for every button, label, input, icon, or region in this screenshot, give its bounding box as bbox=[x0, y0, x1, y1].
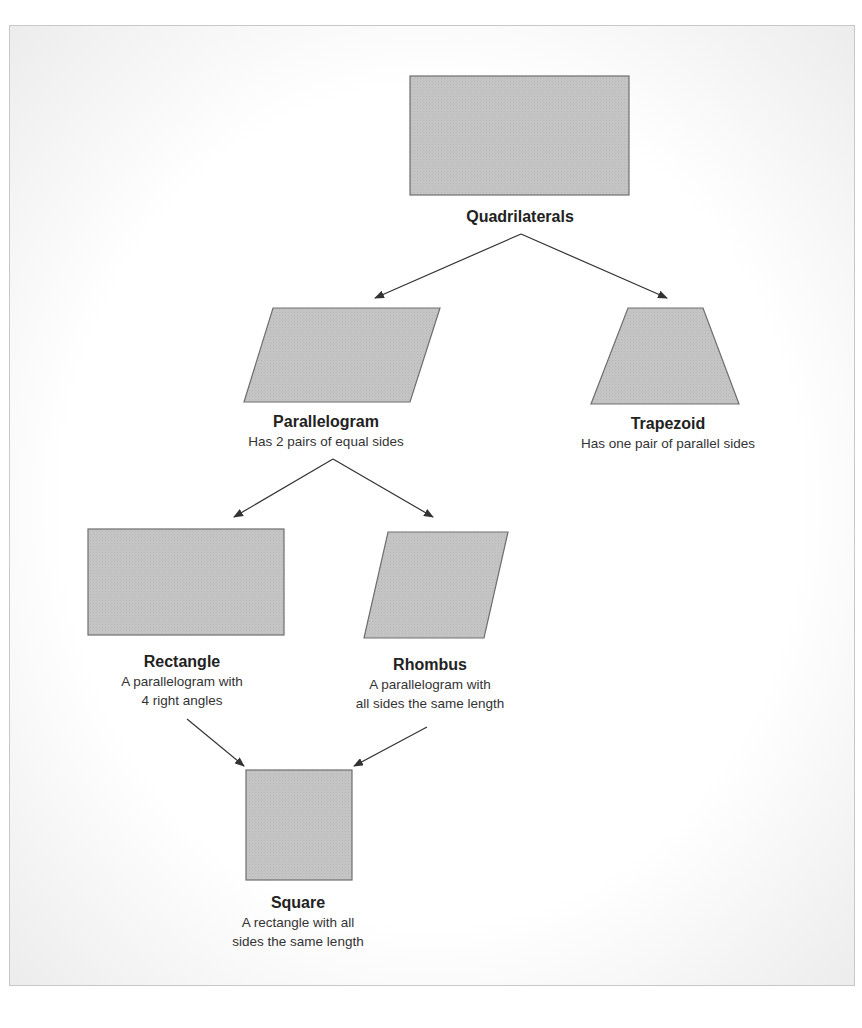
diagram-canvas bbox=[0, 0, 862, 1028]
node-title: Square bbox=[232, 893, 363, 913]
node-title: Trapezoid bbox=[581, 414, 755, 434]
node-description: A parallelogram with bbox=[121, 672, 243, 691]
node-title: Quadrilaterals bbox=[466, 207, 574, 227]
arrow-quadrilaterals-parallelogram bbox=[375, 234, 521, 298]
trapezoid-shape bbox=[591, 308, 739, 404]
arrow-rectangle-square bbox=[187, 719, 244, 766]
node-description: A rectangle with all bbox=[232, 913, 363, 932]
arrow-rhombus-square bbox=[354, 727, 427, 766]
node-title: Parallelogram bbox=[248, 412, 403, 432]
arrow-parallelogram-rhombus bbox=[333, 459, 433, 517]
square-shape bbox=[246, 770, 352, 880]
node-quadrilaterals: Quadrilaterals bbox=[466, 207, 574, 227]
node-description: 4 right angles bbox=[121, 691, 243, 710]
node-description: A parallelogram with bbox=[356, 675, 505, 694]
node-title: Rhombus bbox=[356, 655, 505, 675]
arrow-quadrilaterals-trapezoid bbox=[521, 234, 667, 298]
rectangle-shape bbox=[88, 529, 284, 635]
node-parallelogram: Parallelogram Has 2 pairs of equal sides bbox=[248, 412, 403, 451]
node-rhombus: Rhombus A parallelogram with all sides t… bbox=[356, 655, 505, 713]
parallelogram-shape bbox=[244, 308, 440, 402]
node-square: Square A rectangle with all sides the sa… bbox=[232, 893, 363, 951]
quadrilaterals-shape bbox=[410, 76, 629, 195]
node-title: Rectangle bbox=[121, 652, 243, 672]
node-trapezoid: Trapezoid Has one pair of parallel sides bbox=[581, 414, 755, 453]
node-description: all sides the same length bbox=[356, 694, 505, 713]
node-description: Has 2 pairs of equal sides bbox=[248, 432, 403, 451]
node-rectangle: Rectangle A parallelogram with 4 right a… bbox=[121, 652, 243, 710]
node-description: Has one pair of parallel sides bbox=[581, 434, 755, 453]
arrow-parallelogram-rectangle bbox=[234, 459, 333, 517]
rhombus-shape bbox=[364, 532, 508, 638]
node-description: sides the same length bbox=[232, 932, 363, 951]
